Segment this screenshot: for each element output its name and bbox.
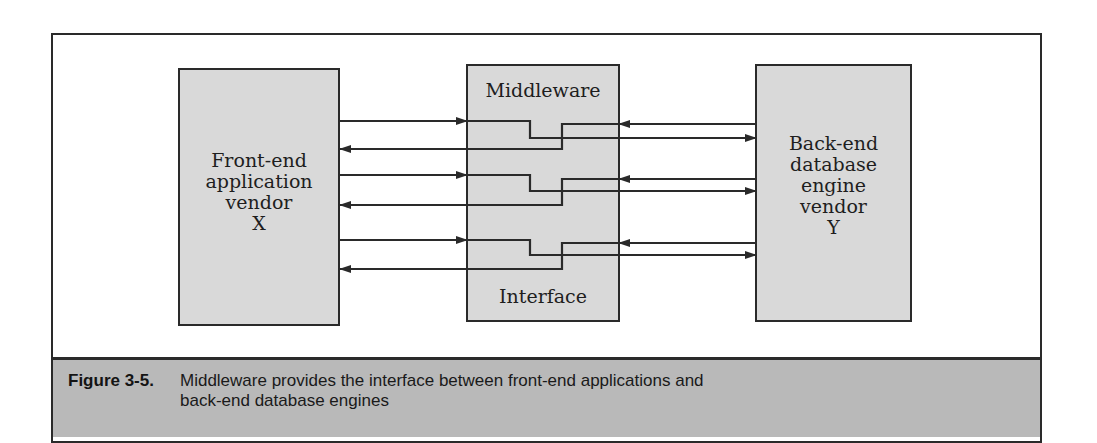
front-end-line: application [179, 171, 339, 192]
middleware-box [467, 65, 619, 321]
figure-caption: Figure 3-5. Middleware provides the inte… [53, 357, 1040, 437]
figure-number: Figure 3-5. [68, 371, 154, 391]
back-end-line: Back-end [756, 133, 911, 154]
figure-caption-text: Middleware provides the interface betwee… [180, 371, 720, 411]
front-end-label: Front-end application vendor X [179, 150, 339, 234]
back-end-label: Back-end database engine vendor Y [756, 133, 911, 238]
back-end-line: database [756, 154, 911, 175]
back-end-line: vendor [756, 196, 911, 217]
middleware-bottom-label: Interface [467, 286, 619, 307]
back-end-line: engine [756, 175, 911, 196]
middleware-top-label: Middleware [467, 80, 619, 101]
front-end-line: X [179, 213, 339, 234]
front-end-line: vendor [179, 192, 339, 213]
back-end-line: Y [756, 217, 911, 238]
front-end-line: Front-end [179, 150, 339, 171]
